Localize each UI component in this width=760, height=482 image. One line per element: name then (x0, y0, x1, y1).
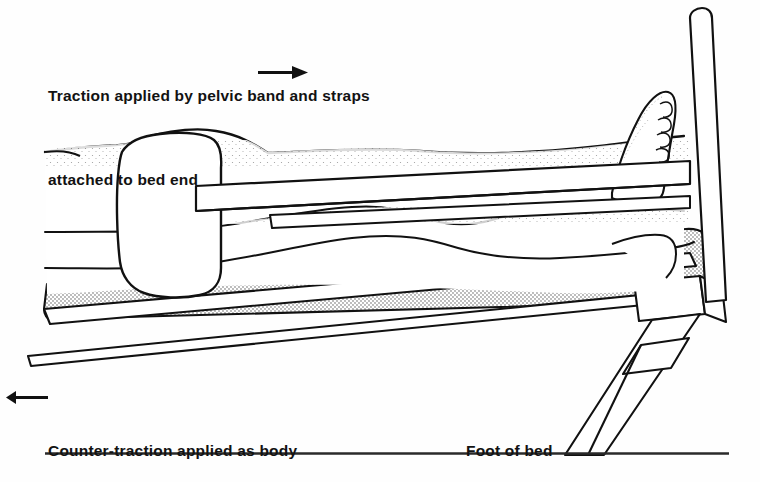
arrow-right-icon (258, 64, 310, 82)
annotation-traction: Traction applied by pelvic band and stra… (48, 26, 370, 222)
annotation-counter-traction: Counter-traction applied as body tends t… (48, 381, 307, 482)
annotation-foot-of-bed-line1: Foot of bed (466, 437, 553, 465)
annotation-counter-traction-line1: Counter-traction applied as body (48, 437, 307, 465)
bed-leg (565, 314, 700, 455)
annotation-traction-line1: Traction applied by pelvic band and stra… (48, 82, 370, 110)
arrow-left-icon (6, 389, 48, 407)
annotation-foot-of-bed: Foot of bed elevated (466, 381, 553, 482)
annotation-traction-line2: attached to bed end (48, 166, 370, 194)
